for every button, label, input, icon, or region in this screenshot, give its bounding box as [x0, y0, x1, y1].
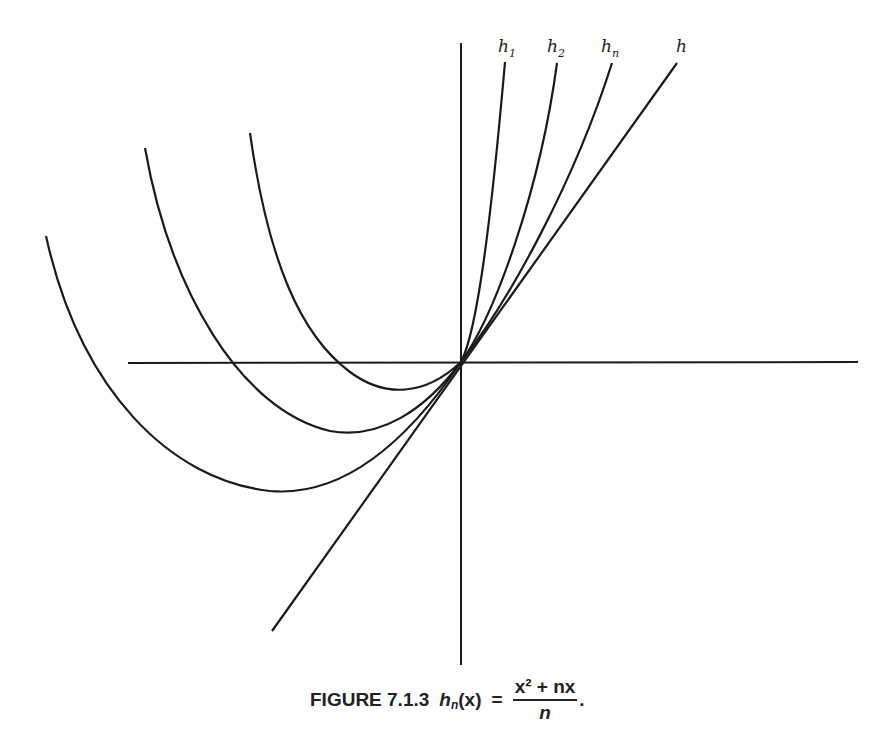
curve-h1 — [250, 62, 505, 390]
curve-h2 — [145, 63, 557, 433]
curve-hn — [46, 63, 612, 491]
caption-func: h — [439, 689, 451, 711]
chart-figure: h1 h2 hn h — [0, 0, 892, 752]
figure-caption: FIGURE 7.1.3 hn(x) = x² + nx n . — [310, 676, 585, 724]
caption-func-sub: n — [451, 698, 458, 712]
caption-arg: (x) — [458, 689, 481, 711]
curve-h — [272, 63, 677, 631]
caption-fraction: x² + nx n — [513, 676, 578, 724]
caption-denominator: n — [539, 701, 551, 724]
x-axis — [128, 362, 858, 363]
caption-end: . — [579, 689, 584, 711]
caption-eq: = — [492, 689, 503, 711]
label-h: h — [676, 36, 687, 56]
caption-prefix: FIGURE 7.1.3 — [310, 689, 429, 711]
label-h2: h2 — [547, 36, 565, 60]
caption-numerator: x² + nx — [513, 676, 578, 701]
label-hn: hn — [601, 36, 619, 60]
label-h1: h1 — [498, 36, 516, 60]
